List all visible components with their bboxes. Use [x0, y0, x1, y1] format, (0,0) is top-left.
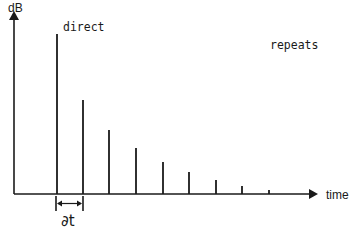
arrow-right-icon: [77, 201, 82, 207]
y-axis-label: dB: [8, 1, 23, 15]
y-axis: [9, 11, 19, 194]
arrow-left-icon: [57, 201, 62, 207]
interval-marker: [56, 196, 83, 211]
echo-decay-diagram: dB direct repeats time ∂t: [0, 0, 358, 238]
interval-label: ∂t: [61, 212, 75, 230]
x-axis-arrow-icon: [309, 189, 318, 199]
x-axis: [14, 189, 318, 199]
repeats-label: repeats: [270, 38, 318, 52]
x-axis-label: time: [326, 188, 349, 202]
impulse-bars: [57, 34, 269, 194]
direct-label: direct: [63, 20, 105, 34]
